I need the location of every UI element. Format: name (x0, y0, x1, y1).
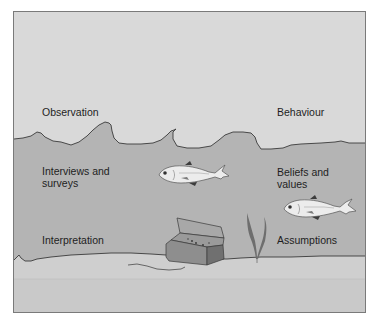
ocean-scene (14, 12, 366, 313)
label-interviews-line1: Interviews and (42, 165, 110, 177)
label-behaviour: Behaviour (277, 106, 324, 118)
label-beliefs-line2: values (277, 178, 307, 190)
label-assumptions: Assumptions (277, 234, 337, 246)
label-interpretation: Interpretation (42, 234, 104, 246)
label-interviews-line2: surveys (42, 177, 78, 189)
label-observation: Observation (42, 106, 99, 118)
diagram-frame (13, 11, 366, 313)
seabed-lower-band (14, 279, 366, 313)
label-beliefs-line1: Beliefs and (277, 166, 329, 178)
